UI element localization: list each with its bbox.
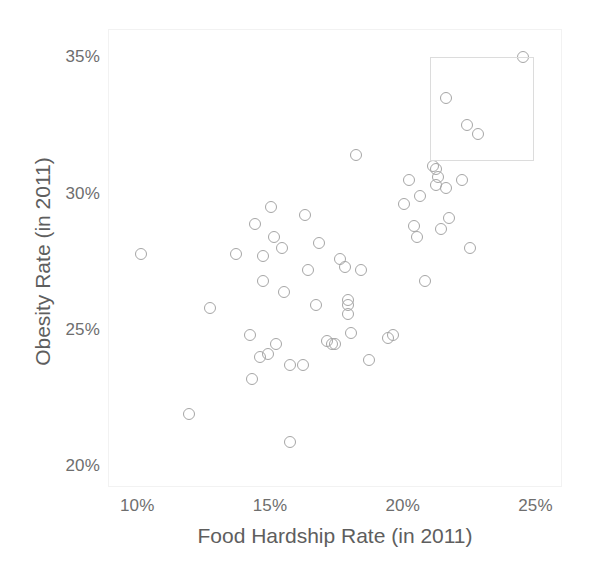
data-point bbox=[246, 373, 258, 385]
x-axis-tick-label: 25% bbox=[495, 497, 575, 514]
data-point bbox=[355, 264, 367, 276]
data-point bbox=[440, 182, 452, 194]
highlight-box-annotation bbox=[430, 57, 534, 161]
x-axis-title: Food Hardship Rate (in 2011) bbox=[108, 524, 562, 547]
data-point bbox=[183, 408, 195, 420]
data-point bbox=[403, 174, 415, 186]
scatter-chart-figure: 20%25%30%35% 10%15%20%25% Food Hardship … bbox=[0, 0, 592, 578]
data-point bbox=[230, 248, 242, 260]
data-point bbox=[350, 149, 362, 161]
data-point bbox=[443, 212, 455, 224]
data-point bbox=[398, 198, 410, 210]
y-axis-title: Obesity Rate (in 2011) bbox=[31, 33, 54, 491]
data-point bbox=[302, 264, 314, 276]
data-point bbox=[297, 359, 309, 371]
data-point bbox=[204, 302, 216, 314]
data-point bbox=[313, 237, 325, 249]
x-axis-tick-label: 20% bbox=[363, 497, 443, 514]
data-point bbox=[268, 231, 280, 243]
data-point bbox=[257, 250, 269, 262]
data-point bbox=[339, 261, 351, 273]
plot-panel bbox=[108, 29, 562, 487]
data-point bbox=[411, 231, 423, 243]
data-point bbox=[432, 171, 444, 183]
data-point bbox=[435, 223, 447, 235]
data-point bbox=[456, 174, 468, 186]
data-point bbox=[310, 299, 322, 311]
x-axis-tick-label: 10% bbox=[97, 497, 177, 514]
data-point bbox=[265, 201, 277, 213]
data-point bbox=[299, 209, 311, 221]
data-point bbox=[276, 242, 288, 254]
data-point bbox=[329, 338, 341, 350]
data-point bbox=[262, 348, 274, 360]
data-point bbox=[284, 436, 296, 448]
data-point bbox=[419, 275, 431, 287]
data-point bbox=[345, 327, 357, 339]
data-point bbox=[135, 248, 147, 260]
data-point bbox=[342, 308, 354, 320]
data-point bbox=[257, 275, 269, 287]
data-point bbox=[464, 242, 476, 254]
data-point bbox=[363, 354, 375, 366]
data-point bbox=[244, 329, 256, 341]
data-point bbox=[249, 218, 261, 230]
data-point bbox=[284, 359, 296, 371]
data-point bbox=[278, 286, 290, 298]
x-axis-tick-label: 15% bbox=[230, 497, 310, 514]
data-point bbox=[387, 329, 399, 341]
data-point bbox=[270, 338, 282, 350]
data-point bbox=[414, 190, 426, 202]
